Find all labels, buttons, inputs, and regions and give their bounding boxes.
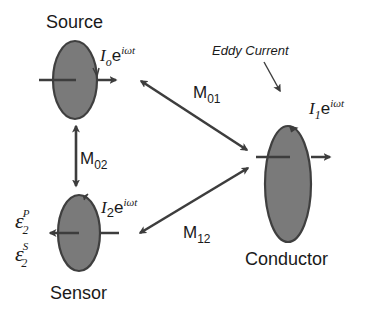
sensor-emf-primary-label: εP2 — [15, 207, 30, 237]
sensor-current-label: I2eiωt — [100, 196, 138, 220]
source-label: Source — [46, 12, 103, 32]
eddy-current-pointer-arrow — [264, 62, 280, 91]
coupling-label-m02: M02 — [80, 149, 108, 172]
eddy-current-label: Eddy Current — [212, 43, 290, 58]
source-current-label: Ioeiωt — [99, 44, 136, 69]
sensor-label: Sensor — [50, 283, 107, 303]
conductor-coil — [256, 126, 330, 242]
conductor-label: Conductor — [245, 249, 328, 269]
sensor-emf-secondary-label: εS2 — [15, 240, 29, 270]
eddy-current-diagram: Source Ioeiωt Sensor I2eiωt εP2 εS2 Cond… — [0, 0, 365, 309]
coupling-label-m12: M12 — [183, 223, 211, 246]
coupling-label-m01: M01 — [193, 83, 221, 106]
conductor-ellipse — [265, 126, 311, 242]
conductor-current-label: I1eiωt — [308, 97, 345, 122]
